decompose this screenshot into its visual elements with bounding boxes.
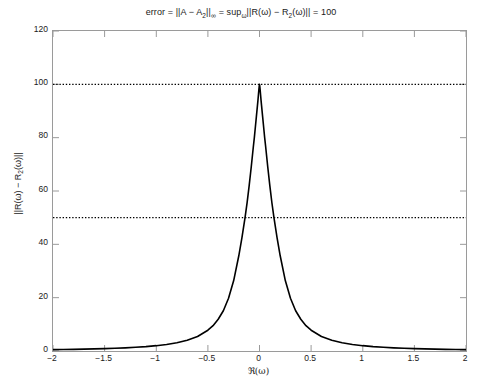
- y-axis-label-subscript: 2: [17, 170, 24, 174]
- x-tick-label-2: 2: [445, 354, 482, 363]
- x-tick-label-1p5: 1.5: [393, 354, 433, 363]
- x-tick-label-neg0p5: −0.5: [187, 354, 227, 363]
- figure-canvas: error = ||A − A2||∞ = supω||R(ω) − R2(ω)…: [0, 0, 482, 385]
- y-tick-label-20: 20: [4, 292, 48, 301]
- plot-area: [52, 30, 467, 352]
- title-part-1: error = ||A − A: [146, 7, 203, 17]
- y-axis-label-part-2: (ω)||: [13, 152, 23, 170]
- y-tick-label-0: 0: [4, 345, 48, 354]
- y-axis-label-part-1: ||R(ω) − R: [13, 174, 23, 215]
- y-tick-label-40: 40: [4, 238, 48, 247]
- x-tick-label-1: 1: [342, 354, 382, 363]
- title-part-5: (ω)|| = 100: [292, 7, 336, 17]
- plot-svg: [53, 31, 466, 351]
- data-curve-group: [53, 84, 466, 349]
- title-part-4: ||R(ω) − R: [247, 7, 289, 17]
- y-axis-tick-labels: 120 100 80 60 40 20 0: [0, 0, 48, 385]
- y-tick-label-120: 120: [4, 25, 48, 34]
- x-tick-label-0: 0: [239, 354, 279, 363]
- reference-lines: [53, 84, 466, 217]
- x-axis-label: ℜ(ω): [52, 366, 465, 377]
- x-axis-label-text: ℜ(ω): [248, 366, 269, 376]
- x-axis-ticks: [53, 31, 466, 351]
- y-axis-label: ||R(ω) − R2(ω)||: [13, 104, 24, 264]
- y-axis-ticks: [53, 31, 466, 351]
- y-tick-label-100: 100: [4, 78, 48, 87]
- chart-title: error = ||A − A2||∞ = supω||R(ω) − R2(ω)…: [0, 6, 482, 18]
- data-curve: [53, 84, 466, 349]
- x-tick-label-neg2: −2: [32, 354, 72, 363]
- title-part-3: = sup: [216, 7, 241, 17]
- x-tick-label-neg1: −1: [135, 354, 175, 363]
- x-tick-label-0p5: 0.5: [290, 354, 330, 363]
- x-tick-label-neg1p5: −1.5: [84, 354, 124, 363]
- y-tick-label-80: 80: [4, 131, 48, 140]
- y-tick-label-60: 60: [4, 185, 48, 194]
